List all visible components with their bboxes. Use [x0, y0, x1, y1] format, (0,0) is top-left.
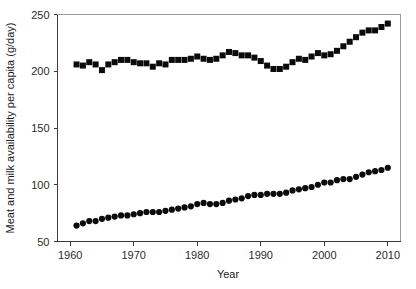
data-point-square — [220, 52, 226, 58]
data-point-circle — [124, 212, 130, 218]
data-point-square — [302, 57, 308, 63]
data-point-square — [143, 60, 149, 66]
data-point-square — [334, 48, 340, 54]
data-point-circle — [118, 212, 124, 218]
data-point-circle — [162, 208, 168, 214]
data-point-circle — [270, 191, 276, 197]
data-point-square — [277, 66, 283, 72]
plot-box — [58, 15, 401, 242]
data-point-square — [372, 27, 378, 33]
data-point-square — [150, 64, 156, 70]
data-point-circle — [359, 171, 365, 177]
data-point-circle — [328, 179, 334, 185]
data-point-circle — [213, 201, 219, 207]
data-point-circle — [289, 187, 295, 193]
data-point-square — [118, 57, 124, 63]
data-point-circle — [156, 209, 162, 215]
x-tick-label: 2010 — [376, 249, 400, 261]
data-point-circle — [137, 210, 143, 216]
x-tick-label: 1970 — [121, 249, 145, 261]
data-point-circle — [347, 176, 353, 182]
chart-figure: 50100150200250 196019701980199020002010 … — [0, 0, 416, 289]
series-meat-circles — [73, 165, 390, 229]
data-point-square — [201, 56, 207, 62]
data-point-square — [328, 51, 334, 57]
data-point-circle — [372, 168, 378, 174]
data-point-square — [156, 60, 162, 66]
data-point-square — [340, 43, 346, 49]
data-point-square — [321, 52, 327, 58]
data-point-circle — [226, 198, 232, 204]
data-point-circle — [80, 220, 86, 226]
data-point-square — [194, 53, 200, 59]
data-point-circle — [220, 200, 226, 206]
data-point-square — [353, 34, 359, 40]
data-point-circle — [315, 182, 321, 188]
data-point-square — [315, 50, 321, 56]
data-point-circle — [378, 167, 384, 173]
scatter-plot-svg: 50100150200250 196019701980199020002010 … — [0, 0, 416, 289]
data-point-square — [239, 52, 245, 58]
data-point-circle — [302, 185, 308, 191]
data-point-circle — [175, 205, 181, 211]
y-tick-label: 250 — [31, 9, 49, 21]
data-point-square — [385, 21, 391, 27]
y-tick-label: 200 — [31, 65, 49, 77]
data-point-square — [232, 50, 238, 56]
data-point-circle — [258, 192, 264, 198]
data-point-square — [188, 56, 194, 62]
data-point-square — [283, 64, 289, 70]
data-point-circle — [86, 218, 92, 224]
x-tick-label: 2000 — [312, 249, 336, 261]
data-point-circle — [73, 223, 79, 229]
data-point-circle — [207, 201, 213, 207]
data-point-square — [182, 57, 188, 63]
data-point-circle — [99, 216, 105, 222]
data-point-square — [359, 30, 365, 36]
data-point-circle — [385, 165, 391, 171]
data-point-circle — [296, 186, 302, 192]
data-point-circle — [200, 200, 206, 206]
x-tick-label: 1980 — [185, 249, 209, 261]
data-point-square — [74, 61, 80, 67]
data-point-circle — [188, 203, 194, 209]
data-point-square — [347, 39, 353, 45]
data-point-square — [378, 24, 384, 30]
data-point-square — [99, 67, 105, 73]
series-milk-squares — [74, 21, 391, 74]
data-point-square — [213, 56, 219, 62]
data-point-circle — [239, 195, 245, 201]
data-point-circle — [181, 204, 187, 210]
data-point-square — [80, 63, 86, 69]
data-point-square — [112, 59, 118, 65]
data-point-circle — [251, 192, 257, 198]
data-point-square — [169, 57, 175, 63]
data-point-square — [296, 56, 302, 62]
data-point-square — [258, 58, 264, 64]
y-axis-ticks: 50100150200250 — [31, 9, 57, 248]
data-point-circle — [194, 201, 200, 207]
data-point-square — [290, 59, 296, 65]
data-point-circle — [169, 207, 175, 213]
data-point-square — [105, 61, 111, 67]
plot-frame — [58, 15, 401, 242]
data-point-circle — [283, 190, 289, 196]
data-point-circle — [105, 215, 111, 221]
data-point-circle — [366, 169, 372, 175]
data-point-square — [270, 66, 276, 72]
data-point-circle — [264, 191, 270, 197]
data-point-circle — [277, 191, 283, 197]
data-point-square — [245, 52, 251, 58]
data-point-circle — [93, 218, 99, 224]
x-axis-title: Year — [217, 268, 240, 280]
data-point-square — [226, 49, 232, 55]
data-point-square — [264, 63, 270, 69]
data-point-circle — [334, 177, 340, 183]
data-point-circle — [131, 211, 137, 217]
x-axis-ticks: 196019701980199020002010 — [58, 242, 400, 261]
data-point-circle — [232, 196, 238, 202]
data-point-circle — [143, 209, 149, 215]
data-point-square — [309, 53, 315, 59]
data-point-circle — [308, 184, 314, 190]
data-point-square — [251, 55, 257, 61]
